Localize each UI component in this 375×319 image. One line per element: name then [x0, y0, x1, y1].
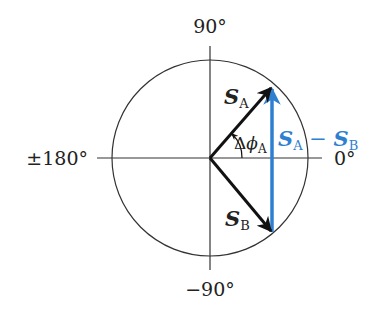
phasor-diagram: 90° −90° ±180° 0° SA SB ΔϕA SA − SB — [0, 0, 375, 319]
angle-label: ΔϕA — [234, 133, 267, 156]
label-minus-90: −90° — [185, 278, 235, 300]
vector-a-label: SA — [224, 84, 249, 111]
label-180: ±180° — [26, 147, 88, 169]
vector-b-label: SB — [225, 206, 250, 233]
difference-vector-label: SA − SB — [278, 126, 358, 153]
label-90: 90° — [193, 15, 227, 37]
